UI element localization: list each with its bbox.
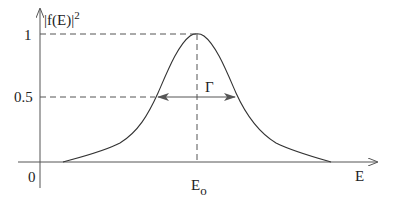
e0-label: Eo <box>191 177 207 198</box>
y-tick-label-1: 1 <box>24 27 32 43</box>
resonance-curve-diagram: |f(E)|2 1 0.5 0 E Eo Γ <box>0 0 394 203</box>
x-axis-label: E <box>355 168 364 184</box>
origin-label: 0 <box>28 169 36 185</box>
width-label: Γ <box>205 79 214 95</box>
y-axis-label: |f(E)|2 <box>44 9 80 29</box>
y-tick-label-0.5: 0.5 <box>14 89 33 105</box>
